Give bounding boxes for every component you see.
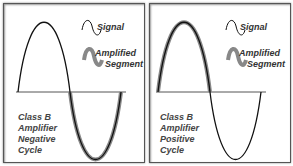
panel-positive-cycle: Signal Amplified Segment Class B Amplifi…	[149, 3, 291, 163]
caption-negative: Class B Amplifier Negative Cycle	[18, 112, 57, 156]
amplified-positive-half	[158, 22, 210, 92]
caption-positive: Class B Amplifier Positive Cycle	[160, 112, 199, 156]
amplified-legend-label-1: Amplified	[239, 48, 280, 58]
signal-legend-label: Signal	[240, 22, 267, 32]
signal-positive-half	[18, 22, 70, 92]
signal-legend-label: Signal	[97, 22, 124, 32]
panel-negative-cycle: Signal Amplified Segment Class B Amplifi…	[3, 3, 145, 163]
amplified-negative-half	[70, 92, 121, 160]
amplified-legend-label-1: Amplified	[95, 48, 136, 58]
amplified-legend-label-2: Segment	[247, 59, 285, 69]
amplified-legend-label-2: Segment	[105, 59, 143, 69]
signal-negative-half	[210, 92, 261, 160]
